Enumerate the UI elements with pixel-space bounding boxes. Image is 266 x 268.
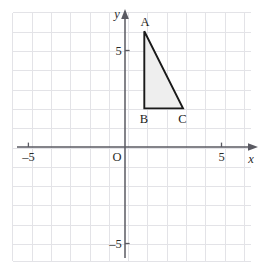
origin-label: O [112, 150, 121, 164]
coordinate-plane-figure: –5 5 5 –5 O x y A B C [0, 0, 266, 268]
vertex-label-a: A [140, 15, 149, 29]
vertex-label-c: C [178, 112, 186, 126]
grid-lines-horizontal [13, 13, 251, 261]
x-tick-label-neg5: –5 [21, 150, 35, 164]
x-tick-label-pos5: 5 [218, 150, 224, 164]
coordinate-plot: –5 5 5 –5 O x y A B C [0, 0, 266, 268]
y-axis-name-label: y [112, 7, 120, 21]
triangle-abc [144, 31, 183, 108]
y-tick-label-neg5: –5 [108, 237, 122, 251]
y-tick-label-pos5: 5 [115, 44, 121, 58]
triangle-abc-shape [144, 31, 183, 108]
vertex-label-b: B [140, 112, 148, 126]
x-axis-name-label: x [247, 152, 254, 166]
